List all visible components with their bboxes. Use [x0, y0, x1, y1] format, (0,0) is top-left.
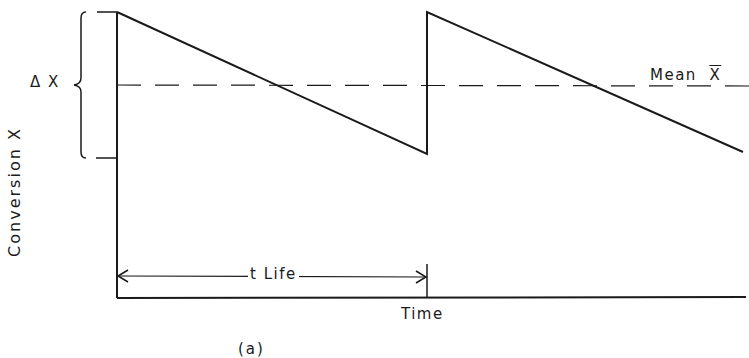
y-axis-label: Conversion X — [5, 127, 24, 257]
figure-caption: (a) — [238, 340, 265, 358]
delta-brace — [74, 12, 86, 158]
mean-dashed-line — [117, 85, 749, 86]
mean-label: Mean X — [650, 66, 721, 84]
period-label: t Life — [248, 265, 299, 283]
mean-symbol: X — [709, 66, 721, 84]
delta-x-label: Δ X — [30, 73, 60, 91]
x-axis — [117, 297, 746, 298]
x-axis-label: Time — [401, 305, 444, 323]
mean-text: Mean — [650, 66, 697, 84]
